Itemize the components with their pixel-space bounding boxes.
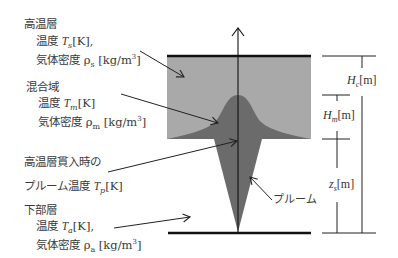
temp-unit: [K], bbox=[73, 219, 94, 233]
mixing-zone-title: 混合域 bbox=[26, 80, 59, 94]
plume-temp-unit: [K] bbox=[105, 179, 123, 193]
density-unit: [kg/m bbox=[95, 53, 132, 67]
temp-prefix: 温度 bbox=[38, 96, 64, 110]
hc-unit: [m] bbox=[359, 73, 376, 87]
density-prefix: 気体密度 bbox=[36, 53, 84, 67]
lower-layer-density: 気体密度 ρa [kg/m3] bbox=[36, 235, 141, 257]
density-prefix: 気体密度 bbox=[36, 238, 84, 252]
density-unit: [kg/m bbox=[95, 238, 132, 252]
hm-unit: [m] bbox=[337, 108, 354, 122]
plume-temp-line1: 高温層貫入時の bbox=[24, 155, 101, 169]
plume-temp-prefix: プルーム温度 bbox=[24, 179, 94, 193]
temp-unit: [K] bbox=[78, 96, 96, 110]
dimension-hc: Hc[m] bbox=[347, 73, 377, 89]
density-close: ] bbox=[136, 53, 141, 67]
temp-prefix: 温度 bbox=[36, 34, 62, 48]
density-close: ] bbox=[137, 238, 142, 252]
density-prefix: 気体密度 bbox=[38, 115, 86, 129]
hc-symbol: H bbox=[347, 73, 356, 87]
plume-label: プルーム bbox=[273, 193, 317, 207]
density-unit: [kg/m bbox=[100, 115, 137, 129]
temp-unit: [K], bbox=[72, 34, 93, 48]
upper-layer-density: 気体密度 ρs [kg/m3] bbox=[36, 50, 141, 72]
leader-plume bbox=[250, 177, 272, 200]
density-sub: m bbox=[92, 122, 100, 131]
upper-layer-title: 高温層 bbox=[24, 17, 57, 31]
density-close: ] bbox=[142, 115, 147, 129]
lower-layer-title: 下部層 bbox=[24, 203, 57, 217]
temp-sub: m bbox=[70, 103, 78, 112]
plume-temp-line2: プルーム温度 Tp[K] bbox=[24, 179, 123, 198]
leader-plume-temp bbox=[108, 141, 237, 172]
hm-symbol: H bbox=[323, 108, 332, 122]
leader-lower-layer bbox=[114, 217, 190, 228]
dimension-zs: zs[m] bbox=[329, 177, 354, 193]
dimension-hm: Hm[m] bbox=[323, 108, 355, 124]
temp-prefix: 温度 bbox=[36, 219, 62, 233]
zs-unit: [m] bbox=[337, 177, 354, 191]
mixing-zone-density: 気体密度 ρm [kg/m3] bbox=[38, 112, 146, 134]
